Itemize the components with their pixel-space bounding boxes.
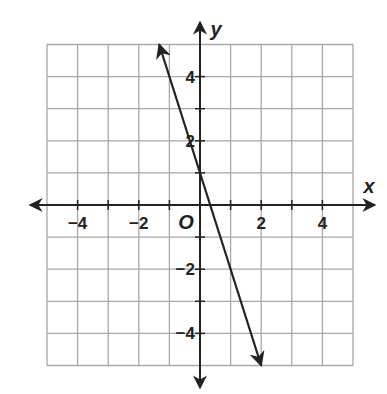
tick-labels: −4−22442−2−4Oxy <box>68 18 376 343</box>
x-tick-label: 2 <box>256 214 265 233</box>
coordinate-plane: −4−22442−2−4Oxy <box>0 0 387 394</box>
y-tick-label: −2 <box>176 260 195 279</box>
x-axis-label: x <box>362 175 375 197</box>
x-tick-label: 4 <box>318 214 328 233</box>
x-tick-label: −2 <box>129 214 148 233</box>
y-axis-label: y <box>209 18 222 40</box>
origin-label: O <box>178 211 194 233</box>
y-tick-label: −4 <box>176 324 196 343</box>
x-tick-label: −4 <box>68 214 88 233</box>
y-tick-label: 4 <box>186 68 196 87</box>
